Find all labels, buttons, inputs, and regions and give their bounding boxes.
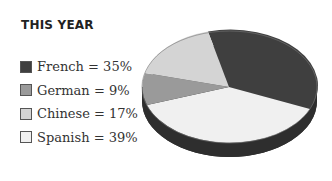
pie-chart (0, 0, 332, 181)
